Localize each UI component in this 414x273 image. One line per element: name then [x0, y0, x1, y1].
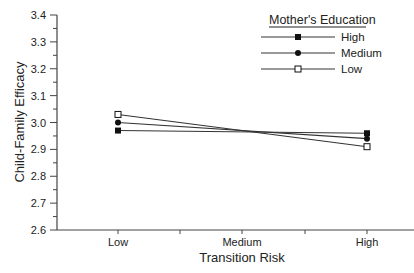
y-tick-label: 2.7 — [31, 197, 46, 209]
y-tick-label: 3.3 — [31, 36, 46, 48]
x-tick-label: High — [356, 236, 379, 248]
svg-text:High: High — [341, 31, 365, 43]
series-lines — [115, 111, 370, 149]
y-axis-label: Child-Family Efficacy — [12, 61, 27, 183]
svg-text:Low: Low — [341, 63, 363, 75]
legend-item-medium: Medium — [261, 47, 382, 59]
y-tick-label: 3.2 — [31, 63, 46, 75]
legend: Mother's Education HighMediumLow — [261, 13, 382, 75]
x-tick-label: Low — [108, 236, 128, 248]
legend-title: Mother's Education — [269, 13, 376, 27]
y-tick-label: 2.9 — [31, 143, 46, 155]
y-ticks: 2.62.72.82.93.03.13.23.33.4 — [31, 9, 57, 236]
line-chart: 2.62.72.82.93.03.13.23.33.4 LowMediumHig… — [0, 0, 414, 273]
x-axis-label: Transition Risk — [199, 250, 285, 265]
svg-text:Medium: Medium — [341, 47, 382, 59]
legend-item-high: High — [261, 31, 365, 43]
y-tick-label: 3.0 — [31, 117, 46, 129]
legend-item-low: Low — [261, 63, 363, 75]
y-tick-label: 2.6 — [31, 224, 46, 236]
y-tick-label: 3.1 — [31, 90, 46, 102]
y-tick-label: 2.8 — [31, 170, 46, 182]
series-high — [115, 128, 370, 137]
y-tick-label: 3.4 — [31, 9, 46, 21]
x-tick-label: Medium — [222, 236, 261, 248]
x-ticks: LowMediumHigh — [108, 230, 378, 248]
